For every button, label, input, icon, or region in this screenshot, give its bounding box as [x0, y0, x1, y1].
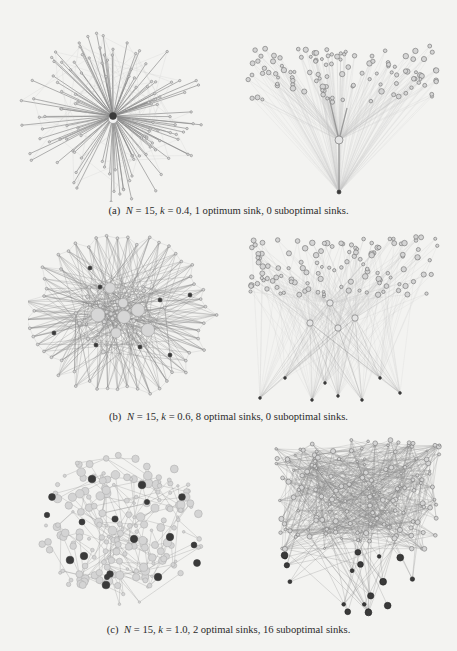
graph-node	[250, 96, 254, 100]
graph-node	[350, 439, 353, 442]
graph-node	[151, 142, 153, 144]
graph-node	[275, 285, 279, 289]
graph-node	[66, 582, 70, 586]
optimal-sink-node	[284, 377, 287, 380]
network-graph-b-left	[28, 225, 228, 405]
graph-node	[281, 476, 285, 480]
graph-node	[434, 68, 439, 73]
graph-node	[396, 94, 401, 99]
suboptimal-sink-node	[377, 555, 381, 559]
graph-node	[411, 520, 415, 524]
graph-node	[127, 523, 132, 528]
caption-a-suboptimal: 0 suboptimal sinks.	[266, 205, 348, 216]
graph-node	[419, 481, 422, 484]
graph-node	[45, 539, 52, 546]
graph-node	[340, 266, 344, 270]
graph-node	[133, 516, 136, 519]
graph-node	[69, 578, 73, 582]
graph-node	[416, 247, 420, 251]
graph-node	[150, 529, 153, 532]
graph-node	[91, 548, 95, 552]
graph-node	[114, 169, 116, 171]
graph-node	[391, 499, 395, 503]
graph-node	[101, 560, 106, 565]
graph-node	[166, 380, 169, 383]
optimal-sink-node	[94, 343, 98, 347]
graph-node	[401, 267, 406, 272]
graph-node	[345, 517, 347, 519]
graph-node	[348, 521, 352, 525]
graph-node	[333, 519, 338, 524]
graph-node	[97, 522, 102, 527]
suboptimal-sink-node	[345, 609, 351, 615]
graph-node	[367, 440, 370, 443]
graph-node	[392, 241, 397, 246]
large-node	[105, 283, 116, 294]
graph-node	[315, 261, 319, 265]
graph-node	[79, 581, 86, 588]
graph-node	[110, 201, 112, 202]
graph-node	[339, 484, 344, 489]
optimal-sink-node	[110, 113, 117, 120]
graph-node	[321, 92, 326, 97]
graph-node	[249, 290, 252, 293]
graph-node	[419, 235, 424, 240]
optimal-sink-node	[52, 331, 56, 335]
graph-node	[195, 79, 197, 81]
graph-node	[392, 93, 396, 97]
graph-node	[297, 509, 300, 512]
graph-node	[330, 96, 334, 100]
graph-node	[104, 564, 110, 570]
graph-node	[154, 92, 156, 94]
graph-node	[434, 237, 437, 240]
graph-node	[360, 475, 365, 480]
graph-node	[282, 546, 287, 551]
graph-node	[128, 179, 130, 181]
optimal-sink-node	[311, 399, 314, 402]
graph-node	[87, 35, 89, 37]
graph-node	[250, 73, 254, 77]
graph-node	[330, 53, 333, 56]
graph-node	[73, 61, 75, 63]
graph-node	[403, 486, 407, 490]
graph-node	[410, 86, 414, 90]
graph-node	[134, 495, 138, 499]
graph-node	[85, 323, 87, 325]
graph-node	[130, 198, 132, 200]
graph-node	[159, 96, 161, 98]
suboptimal-sink-node	[410, 577, 414, 581]
optimal-sink-node	[158, 298, 162, 302]
graph-node	[390, 71, 393, 74]
graph-node	[382, 290, 385, 293]
suboptimal-sink-node	[350, 569, 354, 573]
graph-node	[73, 151, 75, 153]
graph-node	[73, 181, 75, 183]
graph-node	[87, 285, 91, 289]
graph-node	[409, 533, 414, 538]
graph-node	[428, 472, 431, 475]
graph-node	[266, 70, 271, 75]
graph-node	[178, 508, 182, 512]
optimal-sink-node	[337, 190, 341, 194]
caption-a-label: (a)	[108, 205, 120, 216]
graph-node	[67, 250, 70, 253]
graph-node	[109, 303, 112, 306]
graph-node	[415, 520, 420, 525]
graph-node	[41, 266, 44, 269]
graph-node	[144, 471, 153, 480]
graph-node	[322, 241, 326, 245]
graph-node	[112, 483, 115, 486]
graph-node	[265, 287, 269, 291]
graph-node	[105, 75, 107, 77]
suboptimal-sink-node	[194, 560, 201, 567]
graph-node	[425, 292, 428, 295]
graph-node	[289, 70, 293, 74]
graph-node	[358, 257, 362, 261]
graph-node	[321, 89, 324, 92]
graph-node	[146, 85, 148, 87]
graph-node	[403, 465, 407, 469]
graph-node	[400, 472, 403, 475]
graph-node	[368, 495, 372, 499]
graph-node	[187, 153, 189, 155]
graph-node	[409, 546, 413, 550]
